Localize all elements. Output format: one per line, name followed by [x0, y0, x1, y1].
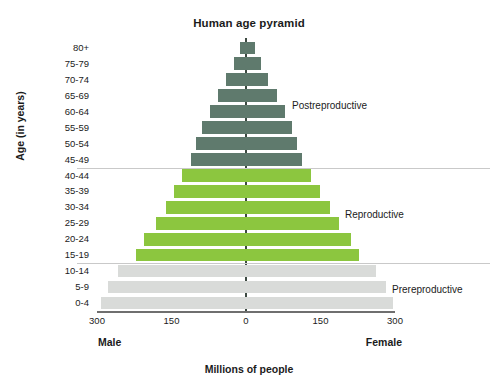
y-axis-tick-25-29: 25-29	[65, 215, 89, 231]
y-axis-tick-70-74: 70-74	[65, 72, 89, 88]
x-tick-0-center: 0	[243, 315, 248, 326]
y-axis-tick-30-34: 30-34	[65, 199, 89, 215]
x-tick-300-left: 300	[89, 315, 105, 326]
bar-female-5-9	[246, 281, 386, 294]
x-tick-150-left: 150	[164, 315, 180, 326]
annotation-prereproductive: Prereproductive	[392, 284, 463, 295]
pyramid-row: 45-49	[97, 152, 395, 168]
group-divider-postreproductive	[77, 168, 490, 169]
bar-male-40-44	[182, 169, 246, 182]
bar-female-65-69	[246, 89, 277, 102]
bar-male-30-34	[166, 201, 246, 214]
pyramid-row: 55-59	[97, 120, 395, 136]
bar-female-15-19	[246, 249, 359, 262]
bar-female-30-34	[246, 201, 330, 214]
y-axis-tick-0-4: 0-4	[75, 295, 89, 311]
x-axis-line	[97, 311, 395, 313]
y-axis-tick-80+: 80+	[73, 40, 89, 56]
y-axis-tick-55-59: 55-59	[65, 120, 89, 136]
bar-male-10-14	[118, 265, 246, 278]
group-divider-reproductive	[77, 263, 490, 264]
y-axis-title: Age (in years)	[14, 66, 26, 186]
pyramid-row: 15-19	[97, 247, 395, 263]
bar-female-20-24	[246, 233, 351, 246]
pyramid-row: 80+	[97, 40, 395, 56]
bar-male-25-29	[156, 217, 246, 230]
bar-female-60-64	[246, 105, 285, 118]
bar-female-35-39	[246, 185, 320, 198]
pyramid-row: 0-4	[97, 295, 395, 311]
annotation-postreproductive: Postreproductive	[292, 100, 367, 111]
y-axis-tick-60-64: 60-64	[65, 104, 89, 120]
bar-male-70-74	[226, 73, 246, 86]
annotation-reproductive: Reproductive	[345, 209, 404, 220]
y-axis-tick-50-54: 50-54	[65, 136, 89, 152]
bar-female-10-14	[246, 265, 376, 278]
bar-male-75-79	[234, 57, 246, 70]
x-axis-tick-labels: 3001500150300	[97, 315, 395, 329]
bar-female-50-54	[246, 137, 297, 150]
y-axis-tick-45-49: 45-49	[65, 152, 89, 168]
bar-male-5-9	[108, 281, 246, 294]
bar-male-15-19	[136, 249, 246, 262]
male-side-label: Male	[98, 336, 121, 348]
pyramid-row: 40-44	[97, 168, 395, 184]
bar-male-45-49	[191, 153, 246, 166]
page-title: Human age pyramid	[0, 17, 498, 29]
pyramid-row: 70-74	[97, 72, 395, 88]
population-pyramid-chart: Human age pyramid Age (in years) 80+75-7…	[0, 0, 498, 385]
y-axis-tick-65-69: 65-69	[65, 88, 89, 104]
bar-female-55-59	[246, 121, 292, 134]
bar-female-40-44	[246, 169, 311, 182]
bar-male-0-4	[101, 297, 246, 310]
bar-female-70-74	[246, 73, 268, 86]
bar-female-80+	[246, 42, 255, 55]
bar-male-20-24	[144, 233, 246, 246]
female-side-label: Female	[366, 336, 402, 348]
bar-male-50-54	[196, 137, 246, 150]
pyramid-row: 20-24	[97, 231, 395, 247]
bar-female-45-49	[246, 153, 302, 166]
pyramid-row: 5-9	[97, 279, 395, 295]
pyramid-row: 35-39	[97, 183, 395, 199]
y-axis-tick-15-19: 15-19	[65, 247, 89, 263]
bar-male-55-59	[202, 121, 246, 134]
y-axis-tick-20-24: 20-24	[65, 231, 89, 247]
y-axis-tick-10-14: 10-14	[65, 263, 89, 279]
x-tick-300-right: 300	[387, 315, 403, 326]
x-axis-title: Millions of people	[0, 363, 498, 375]
bar-female-25-29	[246, 217, 339, 230]
bar-male-60-64	[210, 105, 246, 118]
pyramid-row: 75-79	[97, 56, 395, 72]
y-axis-tick-5-9: 5-9	[75, 279, 89, 295]
pyramid-row: 50-54	[97, 136, 395, 152]
bar-female-75-79	[246, 57, 261, 70]
x-tick-150-right: 150	[313, 315, 329, 326]
y-axis-tick-75-79: 75-79	[65, 56, 89, 72]
pyramid-row: 10-14	[97, 263, 395, 279]
bar-female-0-4	[246, 297, 393, 310]
bar-male-65-69	[218, 89, 246, 102]
y-axis-tick-40-44: 40-44	[65, 168, 89, 184]
y-axis-tick-35-39: 35-39	[65, 183, 89, 199]
bar-male-35-39	[174, 185, 246, 198]
plot-area: 80+75-7970-7465-6960-6455-5950-5445-4940…	[97, 40, 395, 311]
